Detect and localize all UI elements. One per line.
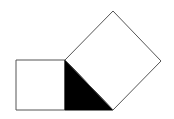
left-square (16, 60, 65, 110)
pythagorean-diagram (0, 0, 174, 119)
